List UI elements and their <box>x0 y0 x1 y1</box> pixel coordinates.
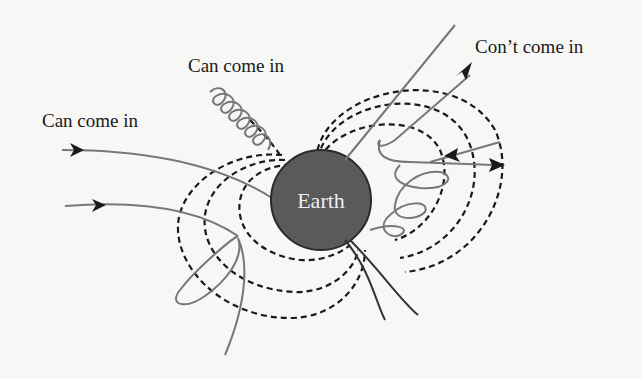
lower-trajectories <box>345 240 418 320</box>
magnetosphere-diagram: Earth Can come in Can come in Con’t come… <box>0 0 642 379</box>
arrow-icon <box>92 199 106 212</box>
earth-label: Earth <box>297 188 345 213</box>
arrow-icon <box>456 62 472 80</box>
helical-trajectory <box>210 88 270 150</box>
label-can-come-in-left: Can come in <box>42 110 139 131</box>
label-can-come-in-top: Can come in <box>188 55 285 76</box>
incoming-trajectories-left <box>62 143 272 355</box>
diagram-canvas: Earth Can come in Can come in Con’t come… <box>0 0 642 379</box>
label-cant-come-in: Con’t come in <box>475 36 584 57</box>
trapped-loops <box>370 165 448 236</box>
earth: Earth <box>271 150 371 250</box>
